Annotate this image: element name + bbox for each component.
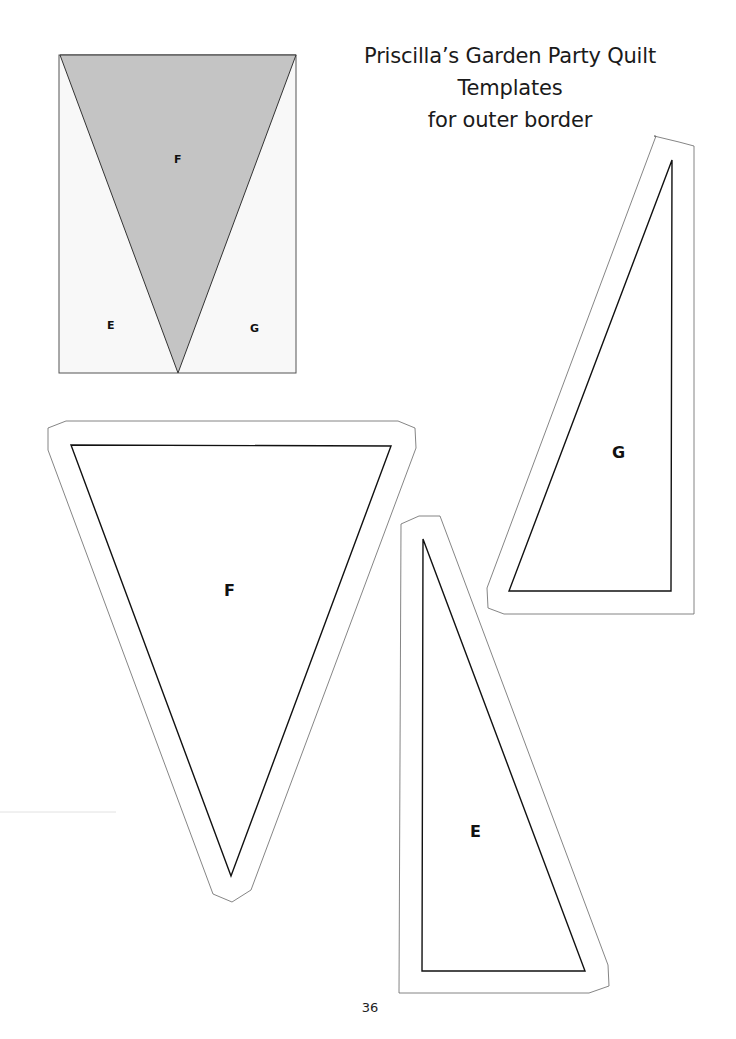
template-f-cutline — [71, 445, 391, 876]
template-g-cutline — [509, 160, 672, 591]
templates-canvas: F E G G F E — [0, 0, 736, 1039]
page-number: 36 — [330, 1000, 410, 1015]
template-f: F — [48, 421, 416, 902]
document-page: Priscilla’s Garden Party Quilt Templates… — [0, 0, 736, 1039]
template-e-cutline — [422, 539, 585, 971]
template-g: G — [487, 136, 694, 614]
template-e: E — [399, 516, 609, 993]
block-label-e: E — [107, 319, 115, 332]
template-e-label: E — [470, 822, 481, 841]
template-g-label: G — [612, 443, 625, 462]
block-label-f: F — [174, 153, 182, 166]
block-label-g: G — [250, 322, 259, 335]
template-f-label: F — [224, 581, 235, 600]
template-f-seam-allowance — [48, 421, 416, 902]
block-diagram: F E G — [59, 55, 296, 373]
